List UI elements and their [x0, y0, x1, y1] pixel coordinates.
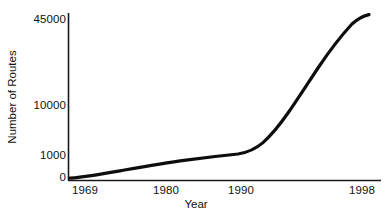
x-tick-label-1969: 1969: [55, 184, 115, 196]
x-tick-label-1998: 1998: [332, 184, 392, 196]
x-tick-label-1990: 1990: [211, 184, 271, 196]
x-tick-label-1980: 1980: [136, 184, 196, 196]
chart-figure: 45000 10000 1000 0 1969 1980 1990 1998 N…: [0, 0, 392, 217]
series-line-number-of-routes: [70, 15, 369, 179]
x-axis-title: Year: [0, 198, 392, 210]
y-axis-title-text: Number of Routes: [6, 50, 18, 143]
y-axis-title: Number of Routes: [0, 0, 24, 193]
